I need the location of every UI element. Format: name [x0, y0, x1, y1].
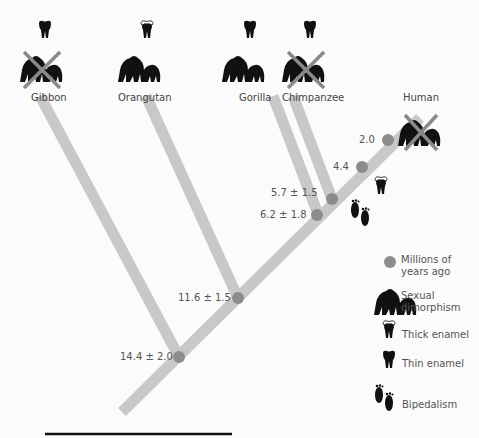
- node-label-orangutan-split: 11.6 ± 1.5: [178, 292, 231, 303]
- legend-sexual-dimorphism: Sexual dimorphism: [401, 290, 471, 314]
- node-label-gorilla-split: 6.2 ± 1.8: [260, 209, 307, 220]
- legend-bipedalism: Bipedalism: [402, 399, 457, 411]
- tree-graphic: [0, 0, 479, 438]
- species-label-gorilla: Gorilla: [239, 92, 271, 103]
- node-label-chimp-split: 5.7 ± 1.5: [271, 187, 318, 198]
- node-label-gibbon-split: 14.4 ± 2.0: [120, 351, 173, 362]
- node-label-2-0: 2.0: [359, 134, 375, 145]
- legend-thick-enamel: Thick enamel: [402, 329, 469, 341]
- legend-mya: Millions of years ago: [401, 254, 479, 278]
- species-label-gibbon: Gibbon: [31, 92, 67, 103]
- species-label-human: Human: [403, 92, 439, 103]
- species-label-orangutan: Orangutan: [118, 92, 172, 103]
- node-label-4-4: 4.4: [333, 161, 349, 172]
- species-label-chimpanzee: Chimpanzee: [282, 92, 344, 103]
- legend-thin-enamel: Thin enamel: [402, 358, 464, 370]
